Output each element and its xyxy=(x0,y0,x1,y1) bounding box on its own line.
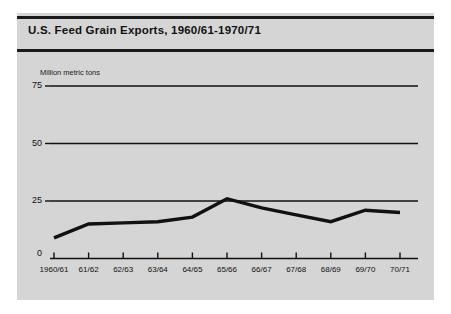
x-axis-tick-label: 66/67 xyxy=(252,265,272,274)
chart-figure: U.S. Feed Grain Exports, 1960/61-1970/71… xyxy=(0,0,451,314)
gridlines-group xyxy=(50,86,418,201)
x-axis-tick-label: 68/69 xyxy=(321,265,341,274)
y-axis-tick-label: 50 xyxy=(16,138,42,148)
x-axis-tick-label: 63/64 xyxy=(148,265,168,274)
y-axis-tickmarks-group xyxy=(45,86,50,201)
y-axis-tick-label: 25 xyxy=(16,195,42,205)
x-axis-ticks-group xyxy=(54,253,400,259)
x-axis-tick-label: 1960/61 xyxy=(40,265,69,274)
y-axis-tick-label: 75 xyxy=(16,80,42,90)
x-axis-tick-label: 70/71 xyxy=(390,265,410,274)
x-axis-tick-label: 69/70 xyxy=(355,265,375,274)
x-axis-tick-label: 65/66 xyxy=(217,265,237,274)
x-axis-tick-label: 67/68 xyxy=(286,265,306,274)
data-series-line xyxy=(54,199,400,238)
y-axis-tick-label: 0 xyxy=(16,248,42,258)
x-axis-tick-label: 64/65 xyxy=(182,265,202,274)
x-axis-tick-label: 62/63 xyxy=(113,265,133,274)
x-axis-tick-label: 61/62 xyxy=(79,265,99,274)
